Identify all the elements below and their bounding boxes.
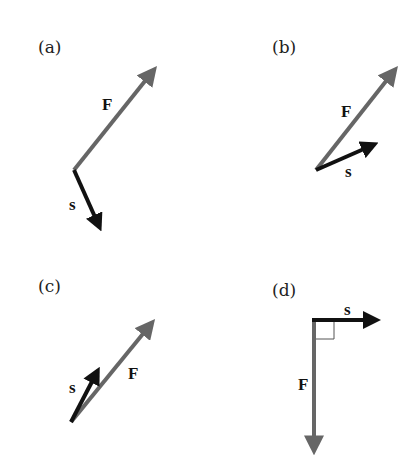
panel-a: (a) F s [38, 37, 153, 226]
force-arrow [74, 71, 153, 170]
force-label: F [341, 102, 351, 121]
force-label: F [298, 375, 308, 394]
force-arrow [71, 324, 151, 422]
displacement-label: s [344, 300, 351, 319]
panel-label: (d) [272, 280, 296, 300]
force-label: F [128, 364, 138, 383]
panel-label: (a) [38, 37, 61, 57]
panel-b: (b) F s [272, 37, 394, 181]
right-angle-marker [316, 322, 334, 339]
panel-label: (c) [38, 276, 61, 296]
vector-diagram: (a) F s (b) F s (c) F s (d) F s [0, 0, 414, 469]
displacement-label: s [69, 195, 76, 214]
panel-d: (d) F s [272, 280, 375, 449]
force-arrow [316, 71, 394, 170]
panel-label: (b) [272, 37, 296, 57]
force-label: F [102, 95, 112, 114]
displacement-label: s [69, 378, 76, 397]
panel-c: (c) F s [38, 276, 151, 422]
displacement-arrow [74, 170, 99, 226]
displacement-label: s [345, 162, 352, 181]
